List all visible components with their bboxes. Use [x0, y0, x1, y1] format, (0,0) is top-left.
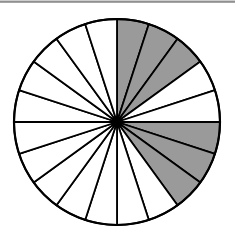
fraction-circle-diagram — [0, 0, 235, 236]
center-hub — [112, 117, 122, 127]
